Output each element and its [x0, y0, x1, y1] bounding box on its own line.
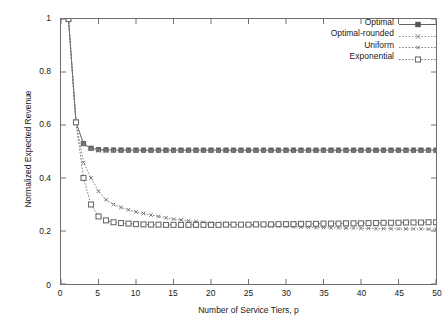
- legend-item-uniform: Uniform: [296, 39, 438, 51]
- x-tick-label: 35: [319, 289, 328, 298]
- x-tick-label: 20: [206, 289, 215, 298]
- legend-label: Exponential: [350, 51, 398, 61]
- x-tick-label: 30: [281, 289, 290, 298]
- legend-item-optimal: Optimal: [296, 16, 438, 28]
- x-axis-tick-labels: 05101520253035404550: [0, 289, 448, 303]
- legend-item-exponential: Exponential: [296, 51, 438, 63]
- legend-label: Optimal-rounded: [331, 28, 398, 38]
- chart-legend: OptimalOptimal-roundedUniformExponential: [296, 16, 438, 62]
- x-tick-label: 40: [357, 289, 366, 298]
- legend-sample-filled-square-icon: [398, 16, 438, 27]
- legend-item-optimal-rounded: Optimal-rounded: [296, 28, 438, 40]
- y-tick-label: 1: [0, 14, 51, 23]
- x-tick-label: 10: [131, 289, 140, 298]
- x-tick-label: 50: [432, 289, 441, 298]
- y-axis-title: Normalized Expected Revenue: [23, 59, 33, 239]
- x-tick-label: 45: [395, 289, 404, 298]
- x-tick-label: 15: [168, 289, 177, 298]
- legend-sample-small-x-icon: [398, 39, 438, 50]
- x-tick-label: 5: [95, 289, 100, 298]
- chart-figure: 00.20.40.60.81 05101520253035404550 Numb…: [0, 0, 448, 328]
- x-tick-label: 25: [244, 289, 253, 298]
- legend-label: Uniform: [364, 40, 398, 50]
- legend-label: Optimal: [365, 17, 398, 27]
- y-tick-label: 0: [0, 281, 51, 290]
- legend-sample-x-icon: [398, 28, 438, 39]
- x-axis-title: Number of Service Tiers, p: [60, 305, 437, 315]
- x-tick-label: 0: [58, 289, 63, 298]
- legend-sample-open-square-icon: [398, 51, 438, 62]
